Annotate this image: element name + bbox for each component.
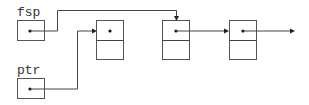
node-1 (97, 21, 124, 60)
node-3 (230, 21, 296, 60)
fsp-label: fsp (17, 5, 40, 20)
ptr-label: ptr (17, 63, 40, 78)
node-3-arrowhead-icon (290, 29, 295, 34)
node-1-next-dot (108, 29, 111, 32)
linked-list-diagram: fsp ptr (0, 0, 309, 105)
ptr-pointer-line (30, 31, 93, 89)
node-2 (163, 21, 230, 60)
node-2-arrowhead-icon (224, 29, 229, 34)
